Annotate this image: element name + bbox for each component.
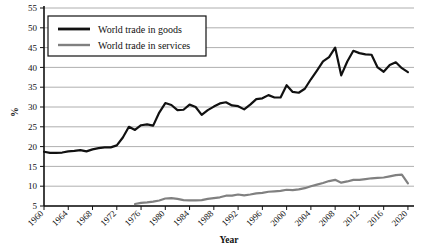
y-axis-title: % — [10, 107, 20, 117]
legend-label-goods: World trade in goods — [98, 24, 182, 35]
y-axis-tick-label: 35 — [28, 82, 38, 92]
y-axis-tick-label: 15 — [28, 162, 38, 172]
x-axis-tick-label: 1996 — [244, 208, 264, 228]
x-axis-tick-label: 2000 — [268, 208, 288, 228]
x-axis-tick-label: 2016 — [365, 208, 385, 228]
x-axis-tick-label: 2012 — [341, 208, 361, 228]
x-axis-tick-label: 2004 — [293, 208, 313, 228]
y-axis-tick-label: 50 — [28, 23, 38, 33]
y-axis-tick-label: 30 — [28, 102, 38, 112]
x-axis-tick-label: 1964 — [50, 208, 70, 228]
x-axis-tick-label: 1980 — [147, 208, 167, 228]
y-axis-tick-label: 10 — [28, 181, 38, 191]
line-chart: 5101520253035404550551960196419681972197… — [0, 0, 421, 251]
x-axis-tick-label: 1992 — [220, 208, 240, 228]
x-axis-tick-label: 1960 — [26, 208, 46, 228]
y-axis-tick-label: 45 — [28, 43, 38, 53]
y-axis-tick-label: 20 — [28, 142, 38, 152]
x-axis-tick-label: 1988 — [195, 208, 215, 228]
x-axis-tick-label: 2020 — [390, 208, 410, 228]
x-axis-tick-label: 2008 — [317, 208, 337, 228]
x-axis-tick-label: 1968 — [74, 208, 94, 228]
x-axis-tick-label: 1972 — [98, 208, 118, 228]
y-axis-tick-label: 25 — [28, 122, 38, 132]
chart-container: 5101520253035404550551960196419681972197… — [0, 0, 421, 251]
series-line-goods — [44, 48, 408, 153]
y-axis-tick-label: 40 — [28, 63, 38, 73]
legend-label-services: World trade in services — [98, 40, 190, 51]
series-line-services — [135, 175, 408, 204]
y-axis-tick-label: 55 — [28, 3, 38, 13]
x-axis-tick-label: 1976 — [123, 208, 143, 228]
x-axis-title: Year — [220, 235, 240, 245]
x-axis-tick-label: 1984 — [171, 208, 191, 228]
